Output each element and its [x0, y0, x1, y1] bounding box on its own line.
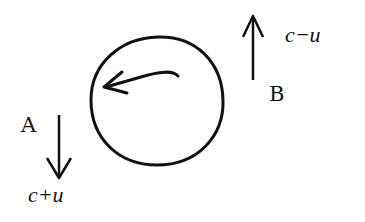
label-a: A	[21, 115, 36, 136]
label-b: B	[269, 84, 284, 105]
arrow-b-up-icon	[243, 16, 263, 80]
arrow-a-down-icon	[47, 115, 71, 178]
rotating-circle	[91, 37, 223, 165]
speed-label-a: c+u	[28, 184, 64, 206]
speed-label-b: c−u	[285, 24, 321, 46]
rotation-arrow-icon	[104, 72, 178, 93]
